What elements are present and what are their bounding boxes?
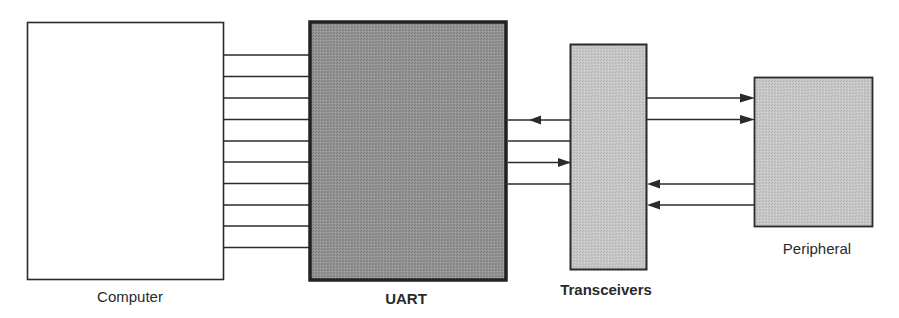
transceiver-peripheral-lines <box>647 94 755 210</box>
uart-block <box>310 22 506 280</box>
arrow-right-icon <box>558 158 571 167</box>
arrow-left-icon <box>529 116 541 125</box>
diagram-canvas <box>0 0 899 318</box>
arrow-left-icon <box>647 180 660 189</box>
transceivers-block <box>571 45 647 270</box>
uart-block-diagram: Computer UART Transceivers Peripheral <box>0 0 899 318</box>
computer-label: Computer <box>97 288 163 305</box>
arrow-left-icon <box>647 201 660 210</box>
uart-transceiver-lines <box>508 116 571 185</box>
arrow-right-icon <box>740 94 755 103</box>
uart-label: UART <box>385 290 427 307</box>
parallel-bus-lines <box>224 55 309 248</box>
arrow-right-icon <box>740 115 755 124</box>
transceivers-label: Transceivers <box>560 281 652 298</box>
peripheral-label: Peripheral <box>783 240 851 257</box>
computer-block <box>28 23 224 280</box>
peripheral-block <box>755 78 873 227</box>
